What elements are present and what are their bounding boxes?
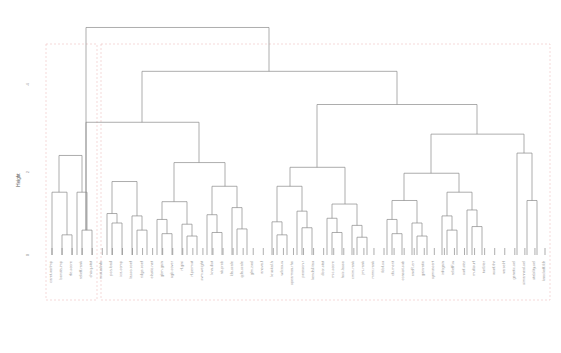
leaf-label: elastic.net (149, 260, 154, 278)
y-axis-tick-label: 2 (25, 170, 30, 173)
leaf-label: cmim.rank (350, 261, 355, 279)
dendrogram-link (277, 235, 287, 255)
dendrogram-link (317, 105, 477, 168)
leaf-label: relieff.rank (78, 261, 83, 279)
leaf-label: turf.iter (481, 260, 486, 273)
dendrogram-link (62, 235, 72, 255)
dendrogram-link (357, 237, 367, 255)
dendrogram-link (187, 236, 197, 255)
leaf-label: kendall.tau (310, 261, 315, 280)
leaf-label: anova.f (259, 260, 264, 274)
leaf-label: gainratio (420, 261, 425, 276)
leaf-label: pearson.r (300, 260, 305, 277)
leaf-label: lasso.coef (128, 260, 133, 278)
y-axis-tick-label: 0 (25, 253, 30, 256)
dendrogram-link (142, 71, 397, 122)
leaf-label: mrmr.rank (370, 261, 375, 279)
dendrogram-link (290, 167, 345, 204)
dendrogram-link (162, 202, 187, 225)
dendrogram-link (332, 204, 357, 225)
dendrogram-link (212, 186, 237, 214)
dendrogram-link (237, 229, 247, 255)
leaf-label: stability.sel (531, 261, 536, 280)
dendrogram-link (447, 192, 472, 216)
leaf-label: pca.load (108, 261, 113, 276)
dendrogram-svg: 024 Height caret.varImpboruta.imprfe.sco… (0, 0, 561, 353)
leaf-label: multisurf (471, 260, 476, 276)
leaf-label: symuncert (430, 260, 435, 279)
y-axis-label: Height (16, 173, 21, 187)
leaf-label: ica.comp (118, 261, 123, 277)
leaf-label: consist.sub (400, 261, 405, 280)
leaf-label: knockoff.fdr (541, 260, 546, 281)
leaf-label: cfs.merit (390, 260, 395, 276)
leaf-label: infogain (440, 261, 445, 275)
leaf-label: spearman.rho (289, 261, 294, 285)
dendrogram-link (472, 227, 482, 255)
dendrogram-link (112, 223, 122, 255)
leaf-label: gbm.gain (159, 261, 164, 277)
dendrogram-link (86, 122, 199, 230)
leaf-label: varselrf (501, 260, 506, 274)
dendrogram-link (174, 163, 225, 202)
dendrogram-link (137, 230, 147, 255)
leaf-label: wilcox.w (279, 261, 284, 276)
dendrogram-link (527, 200, 537, 255)
dendrogram-link (392, 234, 402, 255)
leaf-label: genetic.sel (511, 261, 516, 280)
leaf-label: oneR.err (410, 260, 415, 276)
leaf-label: jmi.rank (360, 261, 365, 276)
y-axis-tick-label: 4 (25, 83, 30, 86)
leaf-label: reliefF.w (450, 261, 455, 275)
leaf-label: rfe.score (68, 261, 73, 276)
dendrogram-link (431, 134, 524, 173)
leaf-label: nb.prob (219, 261, 224, 274)
dendrogram-link (162, 234, 172, 255)
leaf-label: rf.gini (179, 261, 184, 271)
dendrogram-link (277, 186, 302, 222)
dendrogram-link (86, 27, 269, 230)
dendrogram-link (517, 153, 532, 255)
leaf-label: chisq.stat (88, 260, 93, 277)
dendrogram-link (112, 182, 137, 216)
leaf-label: lda.scale (229, 261, 234, 276)
dendrogram-link (417, 236, 427, 255)
leaf-label: mic.score (330, 261, 335, 278)
leaf-label: fcbf.su (380, 261, 385, 272)
leaf-label: qda.scale (239, 261, 244, 278)
y-axis-tick-group: 024 (25, 83, 30, 257)
leaf-label: dcor.stat (320, 260, 325, 276)
leaf-label: surf.star (461, 260, 466, 275)
dendrogram-figure: 024 Height caret.varImpboruta.imprfe.sco… (0, 0, 561, 353)
leaf-label: simanneal.sel (521, 261, 526, 285)
leaf-label: xgb.cover (169, 260, 174, 278)
leaf-label: hsic.lasso (340, 261, 345, 278)
leaf-label: ridge.coef (139, 260, 144, 278)
leaf-label: mutualinfo (98, 261, 103, 279)
leaf-label: caret.varImp (48, 261, 53, 283)
leaf-label: glm.zval (249, 261, 254, 275)
leaf-label-group: caret.varImpboruta.imprfe.scorerelieff.r… (48, 260, 546, 285)
dendrogram-link (52, 192, 67, 255)
dendrogram-link (447, 230, 457, 255)
leaf-label: knn.dist (209, 260, 214, 274)
leaf-label: kruskal.h (269, 261, 274, 277)
leaf-label: svm.weight (199, 260, 204, 280)
dendrogram-link (404, 173, 459, 200)
dendrogram-linkage-group (52, 27, 545, 255)
dendrogram-link (212, 232, 222, 255)
leaf-label: rf.permut (189, 260, 194, 276)
leaf-label: vsurf.thr (491, 260, 496, 275)
dendrogram-link (82, 230, 92, 255)
leaf-label: boruta.imp (58, 261, 63, 279)
dendrogram-link (59, 155, 82, 192)
